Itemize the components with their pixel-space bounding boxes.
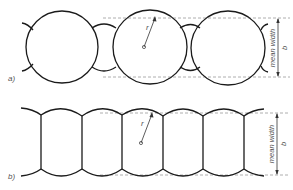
panel-b-top-scallop-1 — [41, 109, 82, 116]
panel-b-b-label: b — [279, 142, 288, 146]
panel-b-label: b) — [8, 172, 15, 181]
panel-a-radius-label: r — [146, 23, 149, 32]
panel-a-right-bottom-arc — [261, 66, 268, 72]
panel-b-top-scallop-end — [244, 109, 264, 116]
panel-b-mean-width-label: mean width — [267, 125, 276, 163]
panel-b-radius-label: r — [141, 119, 144, 128]
panel-b-top-scallop-3 — [122, 109, 163, 116]
panel-b-dimension-arrow-top — [275, 113, 278, 118]
panel-a: r a) mean width b — [8, 10, 290, 85]
panel-a-right-top-arc — [261, 24, 268, 30]
panel-b-top-scallop-2 — [82, 109, 122, 116]
panel-a-circle-2 — [113, 10, 187, 84]
panel-a-b-label: b — [280, 46, 289, 50]
panel-a-link-arc-1-bottom — [92, 67, 116, 71]
panel-b-dimension-arrow-bottom — [275, 170, 278, 175]
panel-b-top-scallop-4 — [163, 109, 203, 116]
panel-b-top-scallop-5 — [203, 109, 244, 116]
panel-b-bottom-scallop-1 — [41, 169, 82, 176]
panel-a-label: a) — [8, 74, 15, 83]
panel-a-circle-1 — [26, 11, 98, 83]
panel-b-left-top-arc — [21, 108, 41, 115]
panel-a-dimension-arrow-bottom — [276, 72, 279, 77]
panel-b: r b) mean width b — [8, 108, 290, 181]
panel-a-dimension-arrow-top — [276, 18, 279, 23]
panel-a-circle-3 — [191, 11, 265, 85]
bead-geometry-figure: r a) mean width b — [0, 0, 293, 190]
panel-a-link-arc-1-top — [92, 24, 116, 28]
panel-b-left-bottom-arc — [21, 169, 41, 176]
panel-a-radius-arrowhead — [153, 16, 157, 22]
panel-a-mean-width-label: mean width — [268, 29, 277, 67]
